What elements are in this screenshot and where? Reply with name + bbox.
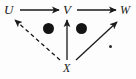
node-label-x: X	[63, 62, 70, 74]
node-label-w: W	[120, 4, 130, 16]
math-diagram-figure: U V W X	[0, 0, 136, 79]
bullet-dot-small	[109, 45, 112, 48]
node-label-u: U	[4, 3, 13, 16]
bullet-dot-right	[76, 23, 87, 34]
node-label-v: V	[63, 3, 71, 16]
bullet-dot-left	[43, 23, 54, 34]
